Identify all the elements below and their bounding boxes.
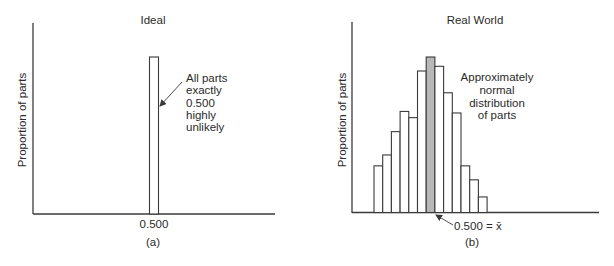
y-axis-label: Proportion of parts [16, 72, 28, 167]
histogram-bar [452, 113, 461, 213]
histogram-bar [435, 66, 444, 212]
histogram-bar [461, 166, 470, 213]
histogram-bar [418, 71, 427, 213]
annotation-line: Approximately [461, 71, 534, 83]
histogram-bar [400, 111, 409, 212]
annotation-line: highly [186, 109, 216, 121]
histogram-bar [374, 166, 383, 213]
histogram-bar [391, 132, 400, 213]
mean-arrow [436, 215, 453, 225]
histogram-bar [470, 180, 479, 213]
histogram-bar [426, 57, 435, 213]
panel-caption: (b) [465, 236, 479, 248]
y-axis-label: Proportion of parts [336, 72, 348, 167]
annotation-line: exactly [186, 84, 222, 96]
panel-title: Real World [447, 14, 504, 26]
annotation-line: All parts [186, 72, 228, 84]
annotation-line: normal [479, 84, 514, 96]
annotation-line: 0.500 [186, 97, 215, 109]
annotation-text: All partsexactly0.500highlyunlikely [186, 72, 228, 133]
histogram-bar [150, 57, 159, 214]
panel-caption: (a) [146, 236, 160, 248]
histogram-bar [478, 197, 487, 213]
histogram-bars [150, 57, 159, 214]
annotation-arrow [160, 82, 182, 106]
panel-title: Ideal [141, 14, 166, 26]
panel-real-world: Real World Proportion of parts Approxima… [336, 14, 599, 248]
histogram-bar [409, 118, 418, 213]
annotation-text: Approximatelynormaldistributionof parts [461, 71, 534, 121]
annotation-line: of parts [478, 109, 517, 121]
panel-ideal: Ideal Proportion of parts All partsexact… [16, 14, 275, 248]
mean-label: 0.500 = x̄ [454, 220, 502, 232]
annotation-line: distribution [469, 97, 525, 109]
histogram-bar [444, 93, 453, 213]
annotation-line: unlikely [186, 121, 225, 133]
figure: Ideal Proportion of parts All partsexact… [0, 0, 614, 266]
x-tick-label: 0.500 [140, 218, 169, 230]
histogram-bar [383, 155, 392, 213]
